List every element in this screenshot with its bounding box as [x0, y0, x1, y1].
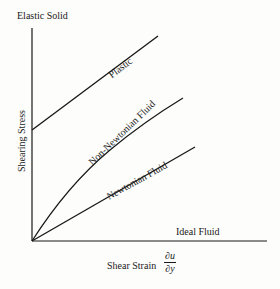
- shear-strain-label: Shear Strain: [107, 261, 156, 271]
- ideal-fluid-label: Ideal Fluid: [176, 227, 220, 237]
- fraction-numerator: ∂u: [164, 251, 176, 263]
- diagram-plot: [0, 0, 280, 289]
- fraction-denominator: ∂y: [165, 263, 174, 274]
- elastic-solid-label: Elastic Solid: [17, 11, 68, 21]
- du-dy-fraction: ∂u ∂y: [164, 251, 176, 274]
- shearing-stress-label: Shearing Stress: [17, 110, 27, 172]
- flow-curves-diagram: Elastic Solid Shearing Stress Plastic No…: [0, 0, 280, 289]
